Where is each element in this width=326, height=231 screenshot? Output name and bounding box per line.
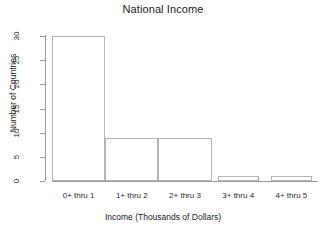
chart-container: National Income Number of Countries 0510… (0, 0, 326, 231)
y-axis-tick-label: 20 (0, 79, 36, 89)
y-axis-tick-label: 10 (0, 128, 36, 138)
bar (218, 176, 259, 181)
chart-title: National Income (0, 3, 326, 15)
bar (105, 138, 158, 182)
y-axis-tick (40, 157, 45, 158)
y-axis-line (45, 35, 46, 181)
y-axis-tick (40, 109, 45, 110)
y-axis-tick-label: 25 (0, 55, 36, 65)
x-axis-tick-label: 4+ thru 5 (251, 191, 326, 200)
y-axis-tick-label: 5 (0, 152, 36, 162)
y-axis-tick (40, 181, 45, 182)
bar (271, 176, 312, 181)
x-axis-title: Income (Thousands of Dollars) (0, 212, 326, 222)
y-axis-tick (40, 60, 45, 61)
y-axis-tick-label: 0 (0, 176, 36, 186)
y-axis-tick (40, 36, 45, 37)
plot-area (52, 30, 318, 181)
bar (52, 36, 105, 181)
y-axis-tick-label: 15 (0, 104, 36, 114)
y-axis-tick (40, 133, 45, 134)
bar (158, 138, 211, 182)
y-axis-tick-label: 30 (0, 31, 36, 41)
y-axis-tick (40, 84, 45, 85)
x-axis-line (52, 181, 318, 182)
